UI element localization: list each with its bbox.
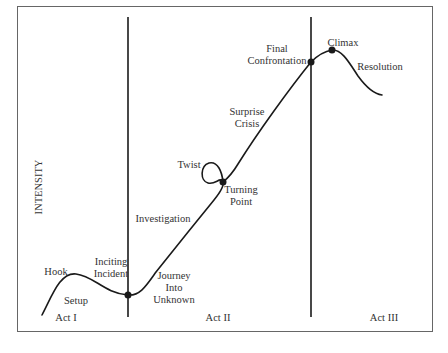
final-confrontation-dot bbox=[308, 59, 315, 66]
label-investigation: Investigation bbox=[136, 213, 192, 224]
label-climax: Climax bbox=[328, 37, 360, 48]
act-2-label: Act II bbox=[206, 312, 231, 323]
y-axis-label: INTENSITY bbox=[33, 159, 44, 214]
label-inciting-incident: IncitingIncident bbox=[94, 256, 128, 279]
label-hook: Hook bbox=[44, 266, 68, 277]
act-1-label: Act I bbox=[55, 312, 77, 323]
inciting-incident-dot bbox=[125, 292, 132, 299]
label-twist: Twist bbox=[177, 159, 200, 170]
label-resolution: Resolution bbox=[357, 61, 403, 72]
act-3-label: Act III bbox=[370, 312, 399, 323]
diagram-frame bbox=[18, 7, 433, 332]
label-setup: Setup bbox=[64, 295, 88, 306]
story-arc-diagram: INTENSITY HookSetupIncitingIncidentJourn… bbox=[0, 0, 448, 353]
